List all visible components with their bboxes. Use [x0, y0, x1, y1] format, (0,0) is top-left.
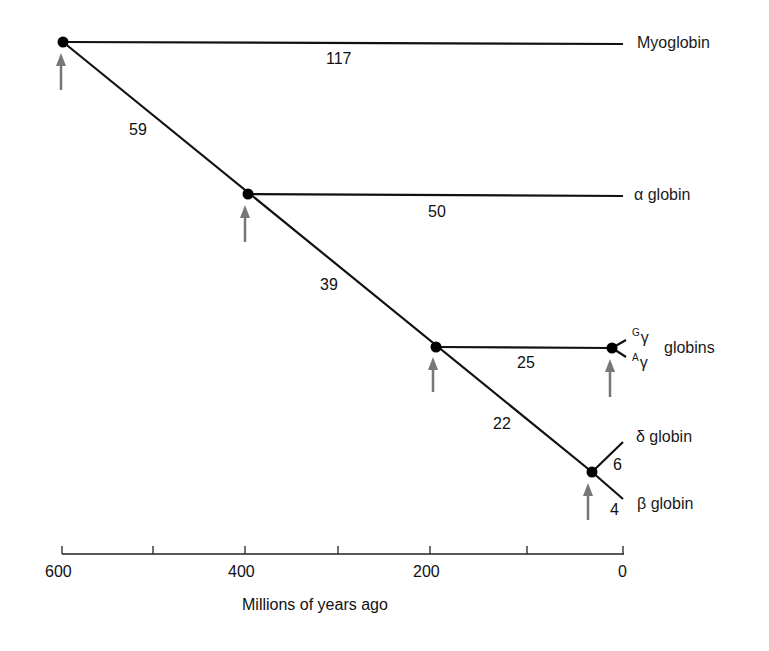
alpha-branch — [248, 194, 623, 196]
label-gamma-globins: globins — [664, 340, 715, 356]
label-a-gamma: Aγ — [632, 355, 648, 371]
tick-200: 200 — [413, 564, 440, 580]
tick-0: 0 — [618, 564, 627, 580]
value-gamma: 25 — [517, 355, 535, 371]
value-alpha: 50 — [428, 204, 446, 220]
globin-tree-diagram — [0, 0, 769, 651]
value-trunk-400-200: 39 — [320, 277, 338, 293]
label-delta-globin: δ globin — [636, 429, 692, 445]
value-trunk-600-400: 59 — [129, 122, 147, 138]
label-myoglobin: Myoglobin — [637, 35, 710, 51]
value-beta: 4 — [610, 502, 619, 518]
node-600 — [58, 37, 69, 48]
value-trunk-200-35: 22 — [493, 416, 511, 432]
axis-label: Millions of years ago — [242, 597, 388, 613]
label-g-gamma: Gγ — [632, 330, 649, 346]
myoglobin-branch — [63, 42, 623, 44]
tick-600: 600 — [45, 564, 72, 580]
node-delta-beta — [587, 467, 598, 478]
label-beta-globin: β globin — [637, 496, 693, 512]
beta-branch — [592, 472, 623, 499]
tick-400: 400 — [228, 564, 255, 580]
label-alpha-globin: α globin — [634, 187, 690, 203]
node-400 — [243, 189, 254, 200]
node-gamma-dup — [607, 343, 618, 354]
value-delta: 6 — [613, 457, 622, 473]
value-myoglobin: 117 — [326, 51, 352, 67]
node-200 — [431, 342, 442, 353]
trunk-branch — [63, 42, 592, 472]
gamma-branch — [436, 347, 612, 348]
